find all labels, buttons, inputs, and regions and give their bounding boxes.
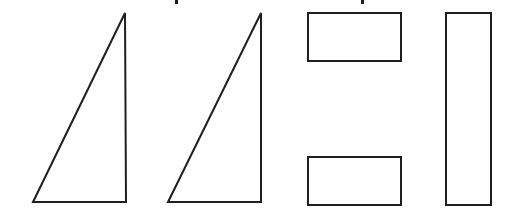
triangle-1 [33,13,126,202]
rectangle-tall [446,13,491,205]
triangle-2 [168,13,261,202]
shapes-diagram [0,0,512,214]
cropped-caption [175,0,364,4]
rectangle-top [308,13,401,61]
rectangle-bottom [308,157,401,205]
